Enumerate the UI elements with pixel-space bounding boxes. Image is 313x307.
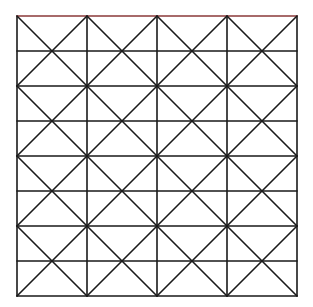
grid-diagram	[0, 0, 313, 307]
